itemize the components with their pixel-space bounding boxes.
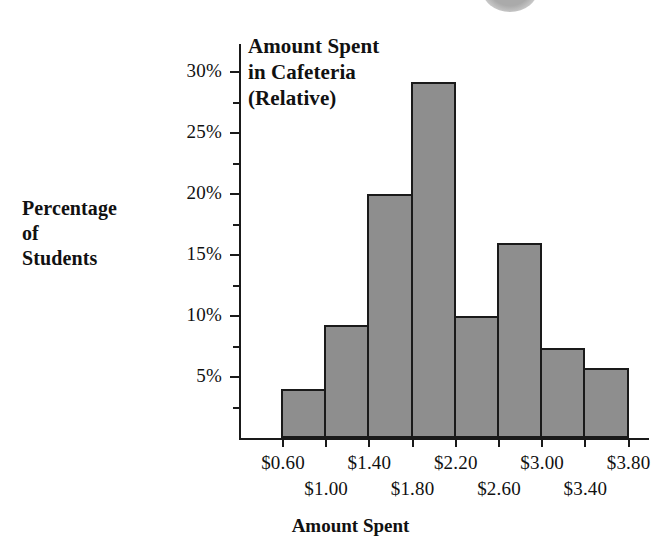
histogram-bar xyxy=(497,243,542,438)
histogram-bar xyxy=(583,368,628,438)
y-axis-tick xyxy=(230,376,240,378)
histogram-figure: Percentage of Students Amount Spent in C… xyxy=(0,0,669,552)
y-axis-minor-tick xyxy=(233,102,240,104)
histogram-bar xyxy=(281,389,326,438)
y-axis-tick-label: 30% xyxy=(152,60,222,82)
histogram-bar xyxy=(540,348,585,438)
y-axis-minor-tick xyxy=(233,285,240,287)
x-axis-tick-label: $2.60 xyxy=(477,478,521,500)
x-axis-tick-label: $1.40 xyxy=(348,452,392,474)
y-axis-tick xyxy=(230,315,240,317)
y-axis-tick xyxy=(230,254,240,256)
y-axis-tick-label: 5% xyxy=(152,365,222,387)
chart-title: Amount Spent in Cafeteria (Relative) xyxy=(248,33,379,111)
x-axis-tick-label: $1.00 xyxy=(304,478,348,500)
histogram-bar xyxy=(411,82,456,438)
x-axis-tick xyxy=(368,438,370,447)
x-axis-tick-label: $2.20 xyxy=(434,452,478,474)
x-axis-tick xyxy=(455,438,457,447)
x-axis-tick xyxy=(498,438,500,447)
x-axis-tick xyxy=(325,438,327,447)
x-axis-line xyxy=(239,438,649,440)
y-axis-tick-label: 20% xyxy=(152,182,222,204)
x-axis-tick xyxy=(628,438,630,447)
chart-title-line-3: (Relative) xyxy=(248,85,379,111)
x-axis-tick xyxy=(541,438,543,447)
x-axis-tick-label: $1.80 xyxy=(391,478,435,500)
y-axis-tick-label: 25% xyxy=(152,121,222,143)
x-axis-tick-label: $3.80 xyxy=(607,452,651,474)
y-axis-tick xyxy=(230,71,240,73)
x-axis-tick-label: $3.00 xyxy=(520,452,564,474)
chart-title-line-1: Amount Spent xyxy=(248,33,379,59)
x-axis-title: Amount Spent xyxy=(0,515,669,537)
y-axis-tick-label: 10% xyxy=(152,304,222,326)
chart-title-line-2: in Cafeteria xyxy=(248,59,379,85)
y-axis-minor-tick xyxy=(233,163,240,165)
y-axis-tick-label: 15% xyxy=(152,243,222,265)
histogram-bar xyxy=(367,194,412,438)
x-axis-tick xyxy=(282,438,284,447)
y-axis-minor-tick xyxy=(233,346,240,348)
x-axis-tick xyxy=(584,438,586,447)
histogram-bar xyxy=(454,316,499,438)
y-axis-minor-tick xyxy=(233,407,240,409)
x-axis-tick-label: $0.60 xyxy=(261,452,305,474)
y-axis-tick xyxy=(230,132,240,134)
histogram-bar xyxy=(324,325,369,438)
y-axis-minor-tick xyxy=(233,224,240,226)
x-axis-tick xyxy=(412,438,414,447)
x-axis-tick-label: $3.40 xyxy=(564,478,608,500)
y-axis-tick xyxy=(230,193,240,195)
page-scan-artifact xyxy=(482,0,538,12)
